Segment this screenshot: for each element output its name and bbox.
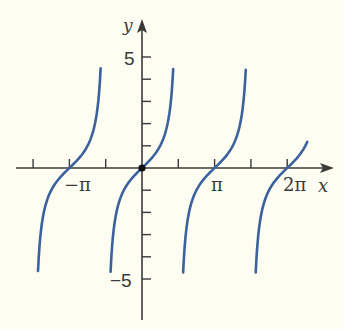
- tan-branch-branch-3: [183, 70, 246, 273]
- tan-branch-branch-1: [38, 68, 101, 271]
- x-tick-label-negpi: −π: [64, 174, 91, 195]
- x-axis-label: x: [318, 175, 328, 196]
- y-tick-label-5: 5: [124, 48, 135, 69]
- x-tick-label-pi: π: [211, 174, 223, 195]
- origin-point: [138, 164, 145, 171]
- tangent-chart: y x 5 −5 −π π 2π: [0, 0, 344, 329]
- tan-branch-branch-4: [256, 142, 308, 272]
- y-tick-label-neg5: −5: [110, 270, 132, 291]
- y-axis-label: y: [122, 15, 133, 35]
- axes: [16, 24, 328, 320]
- tan-curves: [38, 68, 307, 272]
- x-tick-label-2pi: 2π: [283, 174, 306, 195]
